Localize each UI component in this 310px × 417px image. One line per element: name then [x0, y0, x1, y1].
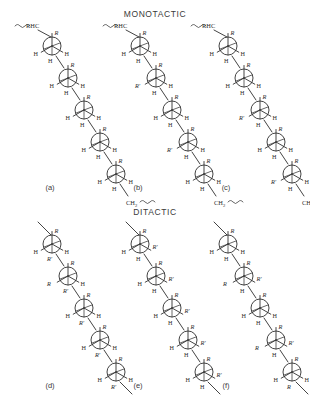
hydrogen-label: H [241, 50, 246, 57]
hydrogen-label: H [82, 146, 87, 153]
substituent-label: R [86, 93, 91, 100]
hydrogen-label: H [217, 178, 222, 185]
substituent-label: R' [184, 307, 191, 314]
substituent-label: R [118, 157, 123, 164]
substituent-label: R [174, 291, 179, 298]
hydrogen-label: H [152, 287, 157, 294]
tail-group-label-b: CH2 [214, 199, 226, 208]
substituent-label: R [86, 291, 91, 298]
hydrogen-label: H [186, 376, 191, 383]
substituent-label: R' [166, 146, 173, 153]
substituent-label: R [206, 355, 211, 362]
head-group-label-a: RHC [26, 22, 39, 29]
hydrogen-label: H [81, 82, 86, 89]
substituent-label: R' [288, 339, 295, 346]
substituent-label: R [294, 355, 299, 362]
hydrogen-label: H [169, 82, 174, 89]
substituent-label: R [102, 125, 107, 132]
hydrogen-label: H [66, 114, 71, 121]
hydrogen-label: H [170, 344, 175, 351]
substituent-label: R' [200, 339, 207, 346]
tail-group-label-a: CH2 [126, 199, 138, 208]
hydrogen-label: H [258, 146, 263, 153]
hydrogen-label: H [136, 255, 141, 262]
hydrogen-label: H [168, 319, 173, 326]
hydrogen-label: H [240, 89, 245, 96]
hydrogen-label: H [153, 50, 158, 57]
substituent-label: R' [256, 275, 263, 282]
substituent-label: R [262, 291, 267, 298]
substituent-label: R [230, 29, 235, 36]
hydrogen-label: H [224, 255, 229, 262]
hydrogen-label: H [273, 312, 278, 319]
substituent-label: R [70, 259, 75, 266]
hydrogen-label: H [34, 50, 39, 57]
hydrogen-label: H [186, 178, 191, 185]
hydrogen-label: H [257, 82, 262, 89]
hydrogen-label: H [129, 376, 134, 383]
hydrogen-label: H [66, 312, 71, 319]
hydrogen-label: H [226, 82, 231, 89]
hydrogen-label: H [154, 114, 159, 121]
substituent-label: R' [62, 287, 69, 294]
substituent-label: R [246, 61, 251, 68]
substituent-label: R [190, 323, 195, 330]
substituent-label: R [174, 93, 179, 100]
hydrogen-label: H [289, 146, 294, 153]
hydrogen-label: H [184, 153, 189, 160]
hydrogen-label: H [274, 376, 279, 383]
hydrogen-label: H [152, 89, 157, 96]
hydrogen-label: H [288, 185, 293, 192]
head-group-label-c: RHC [202, 22, 215, 29]
substituent-label: R [158, 259, 163, 266]
hydrogen-label: H [122, 50, 127, 57]
hydrogen-label: H [138, 280, 143, 287]
hydrogen-label: H [48, 57, 53, 64]
hydrogen-label: H [185, 114, 190, 121]
substituent-label: R' [216, 371, 223, 378]
hydrogen-label: H [65, 50, 70, 57]
hydrogen-label: H [154, 312, 159, 319]
hydrogen-label: H [129, 178, 134, 185]
substituent-label: R [222, 280, 227, 287]
hydrogen-label: H [184, 351, 189, 358]
hydrogen-label: H [122, 248, 127, 255]
substituent-label: R [190, 125, 195, 132]
substituent-label: R' [94, 351, 101, 358]
hydrogen-label: H [97, 312, 102, 319]
hydrogen-label: H [305, 178, 310, 185]
hydrogen-label: H [305, 376, 310, 383]
structure-panel-d: R H H R' R H R R' R H H R' [34, 222, 134, 394]
substituent-label: R [70, 61, 75, 68]
hydrogen-label: H [98, 376, 103, 383]
hydrogen-label: H [80, 121, 85, 128]
hydrogen-label: H [256, 121, 261, 128]
hydrogen-label: H [50, 82, 55, 89]
substituent-label: R [246, 259, 251, 266]
substituent-label: R [294, 157, 299, 164]
structure-panel-e: R R' H H R R' H H R R' H H [122, 222, 223, 394]
substituent-label: R [254, 344, 259, 351]
hydrogen-label: H [240, 287, 245, 294]
substituent-label: R' [110, 383, 117, 390]
hydrogen-label: H [82, 344, 87, 351]
substituent-label: R [118, 355, 123, 362]
tail-group-label-c: CH2 [302, 199, 310, 208]
substituent-label: R [54, 29, 59, 36]
substituent-label: R [54, 227, 59, 234]
substituent-label: R [286, 383, 291, 390]
substituent-label: R [262, 93, 267, 100]
substituent-label: R' [78, 319, 85, 326]
hydrogen-label: H [81, 280, 86, 287]
hydrogen-label: H [200, 185, 205, 192]
hydrogen-label: H [210, 50, 215, 57]
substituent-label: R' [46, 255, 53, 262]
hydrogen-label: H [98, 178, 103, 185]
substituent-label: R' [238, 114, 245, 121]
substituent-label: R [142, 29, 147, 36]
substituent-label: R' [270, 178, 277, 185]
substituent-label: R' [152, 243, 159, 250]
substituent-label: R' [134, 82, 141, 89]
head-group-label-b: RHC [114, 22, 127, 29]
substituent-label: R' [168, 275, 175, 282]
